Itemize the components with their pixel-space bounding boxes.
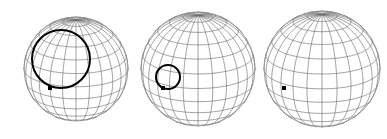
- meridian-line: [281, 15, 322, 124]
- figure-canvas: [0, 0, 387, 139]
- meridian-line: [198, 15, 253, 103]
- meridian-line: [198, 15, 213, 125]
- meridian-line: [76, 20, 113, 118]
- marker-point: [161, 86, 165, 90]
- marker-point: [48, 86, 52, 90]
- meridian-line: [322, 15, 363, 124]
- sphere-panel-1: [24, 17, 128, 121]
- spheres-svg: [0, 0, 387, 139]
- sphere-panel-2: [141, 12, 255, 126]
- meridian-line: [307, 15, 322, 127]
- meridian-line: [322, 15, 337, 127]
- meridian-line: [198, 15, 238, 122]
- meridian-line: [143, 15, 198, 103]
- meridian-line: [266, 15, 322, 104]
- meridian-line: [322, 15, 378, 104]
- marker-point: [282, 86, 286, 90]
- meridian-line: [76, 20, 126, 100]
- sphere-panel-3: [264, 11, 380, 127]
- meridian-line: [183, 15, 198, 125]
